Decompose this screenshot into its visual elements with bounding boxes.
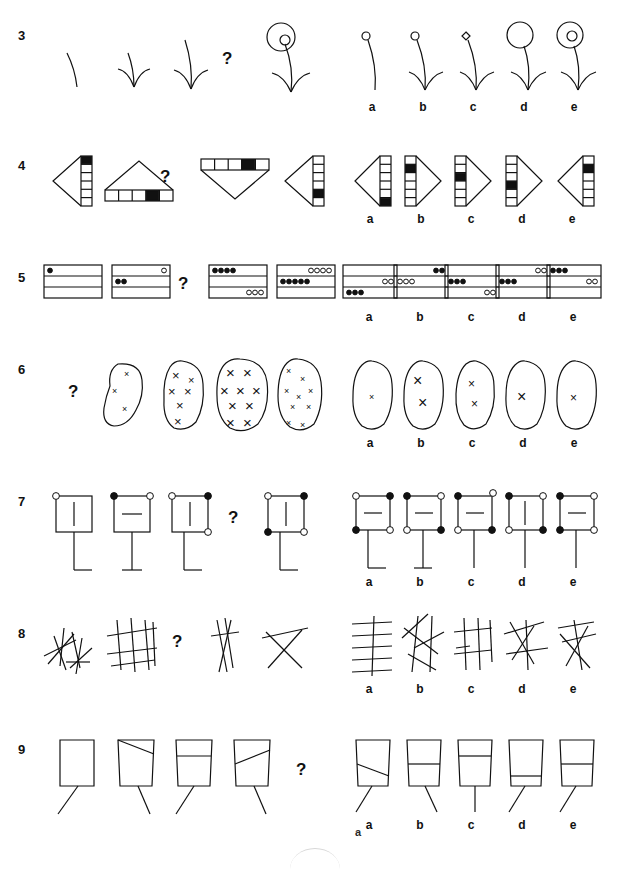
row3-prompt-figure-3 [165,35,213,97]
row5-label-e: e [561,310,585,324]
row5-option-b[interactable] [392,263,450,301]
row3-label-b: b [411,100,435,114]
row5-prompt-figure-1 [42,263,104,301]
row3-option-a[interactable] [353,28,393,96]
row9-option-d[interactable] [501,734,553,820]
svg-text:×: × [300,374,305,384]
row6-label-c: c [460,436,484,450]
row9-question-mark: ? [296,760,306,780]
row3-prompt-figure-4 [258,22,320,100]
row9-option-e[interactable] [552,734,604,820]
row3-option-c[interactable] [455,28,499,96]
row9-label-d: d [510,818,534,832]
svg-text:×: × [296,392,301,402]
row3-prompt-figure-1 [55,45,95,95]
row7-label-a: a [357,575,381,589]
row5-option-d[interactable] [494,263,552,301]
row8-label-d: d [510,682,534,696]
row8-label-e: e [561,682,585,696]
svg-text:×: × [418,394,427,411]
row3-label-d: d [512,100,536,114]
row3-option-d[interactable] [503,22,551,96]
row9-prompt-figure-2 [110,734,166,820]
row9-prompt-figure-1 [52,734,108,820]
question-row-3: 3 ? [0,0,629,120]
row6-prompt-figure-3: × × × × × × × × × [212,356,274,436]
row9-option-c[interactable] [450,734,502,820]
row-number-3: 3 [18,28,25,43]
svg-text:×: × [369,392,374,402]
svg-text:×: × [286,418,291,428]
row7-option-a[interactable] [348,488,398,580]
row7-prompt-figure-3 [162,488,214,580]
row4-option-c[interactable] [452,152,496,210]
row5-option-c[interactable] [443,263,501,301]
row8-option-e[interactable] [552,614,602,676]
row6-prompt-figure-2: × × × × × × [158,358,210,434]
row3-option-b[interactable] [404,28,448,96]
row4-option-e[interactable] [553,152,597,210]
page-footer-arc [290,848,340,869]
row6-label-d: d [511,436,535,450]
row5-prompt-figure-4 [275,263,337,301]
svg-text:×: × [290,402,295,412]
row9-option-b[interactable] [399,734,451,820]
row6-option-d[interactable]: × [501,358,551,434]
row4-option-d[interactable] [503,152,547,210]
row7-option-e[interactable] [552,488,602,580]
row-number-9: 9 [18,742,25,757]
row4-prompt-figure-4 [280,152,328,210]
row5-label-b: b [408,310,432,324]
row8-option-b[interactable] [398,610,452,678]
row9-option-a[interactable] [348,734,400,820]
row9-prompt-figure-3 [168,734,224,820]
row7-label-d: d [510,575,534,589]
row8-option-a[interactable] [348,612,398,678]
row7-option-d[interactable] [501,488,551,580]
row4-label-c: c [459,212,483,226]
svg-text:×: × [168,384,176,399]
svg-text:×: × [236,382,245,399]
svg-text:×: × [176,398,184,413]
row3-option-e[interactable] [553,22,601,96]
row6-option-b[interactable]: × × [399,358,449,434]
row6-label-e: e [562,436,586,450]
row5-option-e[interactable] [545,263,603,301]
row4-question-mark: ? [160,167,170,187]
svg-text:×: × [300,420,305,430]
row5-prompt-figure-3 [207,263,269,301]
row8-question-mark: ? [172,632,182,652]
row7-option-b[interactable] [399,488,449,580]
row5-question-mark: ? [178,274,188,294]
row5-option-a[interactable] [341,263,399,301]
row7-option-c[interactable] [450,488,500,580]
row6-question-mark: ? [68,382,78,402]
svg-text:×: × [122,404,127,414]
row7-question-mark: ? [228,508,238,528]
row-number-8: 8 [18,626,25,641]
row4-option-a[interactable] [350,152,394,210]
row4-prompt-figure-3 [196,156,276,204]
row4-option-b[interactable] [402,152,446,210]
svg-text:×: × [112,386,117,396]
row4-prompt-figure-1 [48,152,96,210]
row7-prompt-figure-1 [46,488,98,580]
row6-option-c[interactable]: × × [450,358,500,434]
svg-text:×: × [471,397,478,411]
row8-label-a: a [357,682,381,696]
row8-option-c[interactable] [450,614,500,676]
row7-label-b: b [408,575,432,589]
row8-prompt-figure-4 [258,620,314,676]
svg-text:×: × [308,386,313,396]
row8-prompt-figure-2 [105,614,163,676]
row6-option-e[interactable]: × [552,358,602,434]
row8-option-d[interactable] [500,614,552,676]
row8-label-b: b [408,682,432,696]
row-number-4: 4 [18,158,25,173]
row6-option-a[interactable]: × [348,358,398,434]
row5-label-d: d [510,310,534,324]
row4-label-e: e [560,212,584,226]
svg-text:×: × [172,368,180,383]
row7-prompt-figure-4 [258,488,310,580]
